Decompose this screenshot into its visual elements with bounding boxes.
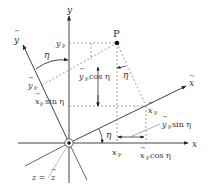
svg-text:y: y [13,35,20,45]
ytp-cos-label: ~ y P cos η [78,65,110,82]
svg-text:P: P [62,43,66,49]
z-axis-label: z = ~ z [31,166,57,182]
svg-text:y: y [161,120,167,129]
svg-text:x: x [140,151,145,160]
y-tilde-label: y ~ [13,27,20,45]
xp-label: x P [112,148,122,158]
xtp-cos-label: ~ x P cos η [140,144,171,161]
svg-text:x: x [112,148,117,157]
svg-text:P: P [40,101,44,107]
svg-text:y: y [78,72,84,81]
y-axis-label: y [66,5,73,15]
eta-label-origin: η [106,130,112,140]
svg-text:cos η: cos η [150,151,171,160]
eta-arc-top [36,60,68,69]
x-tilde-label: x ~ [189,72,195,88]
ytp-sin-label: ~ y P sin η [161,113,191,130]
svg-text:sin η: sin η [172,120,191,129]
origin-dot [67,141,71,145]
eta-label-top: η [44,50,50,60]
x-axis-label: x [192,139,197,149]
svg-text:y: y [55,39,61,48]
construction-lines [42,43,146,143]
svg-text:x: x [148,106,153,115]
point-p-label: P [113,28,120,39]
xtp-sin-label: ~ x P sin η [35,90,64,107]
x-tilde-axis [69,86,186,143]
svg-text:P: P [118,152,122,158]
rotation-diagram: P y x y ~ x ~ y P ~ y P ~ x P sin η ~ y … [0,0,211,193]
eta-arc-origin [99,129,102,143]
point-p [115,41,120,46]
ytp-sin-leader [130,124,160,137]
svg-text:z =: z = [31,173,45,182]
svg-text:~: ~ [189,72,195,80]
ytp-label: ~ y P [27,74,38,91]
eta-arc-near-p [117,66,126,68]
svg-text:P: P [154,110,158,116]
eta-label-p: η [123,70,129,80]
svg-text:~: ~ [14,27,20,35]
svg-text:sin η: sin η [45,97,64,106]
xtp-label: ~ x P [148,99,158,116]
svg-text:y: y [27,81,33,90]
yp-label: y P [55,39,66,49]
svg-text:cos η: cos η [89,72,110,81]
svg-text:z: z [50,173,56,182]
